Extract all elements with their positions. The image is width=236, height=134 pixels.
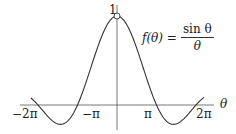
formula-denominator: θ (194, 38, 201, 53)
function-label: f(θ) = sin θ θ (142, 22, 214, 53)
x-tick-pi: π (144, 108, 152, 120)
formula-lhs: f(θ) = (142, 31, 177, 45)
x-tick-neg-pi: −π (82, 108, 100, 120)
formula-numerator: sin θ (181, 22, 214, 38)
y-tick-1: 1 (109, 4, 117, 16)
formula-fraction: sin θ θ (181, 22, 214, 53)
x-axis-label: θ (220, 98, 227, 110)
x-tick-2pi: 2π (196, 108, 212, 120)
x-tick-neg-2pi: −2π (12, 108, 38, 120)
